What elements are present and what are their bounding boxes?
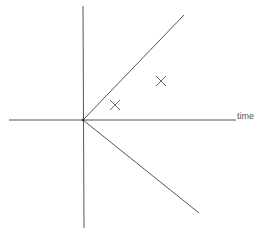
lower-ray — [83, 120, 199, 213]
origin-point — [82, 119, 85, 122]
time-axis-label: time — [237, 111, 254, 121]
light-cone-diagram: time — [0, 0, 258, 238]
x-marker-icon — [156, 76, 166, 86]
upper-ray — [83, 15, 184, 120]
x-marker-icon — [110, 100, 120, 110]
markers — [110, 76, 166, 110]
vertical-axis — [83, 6, 84, 228]
